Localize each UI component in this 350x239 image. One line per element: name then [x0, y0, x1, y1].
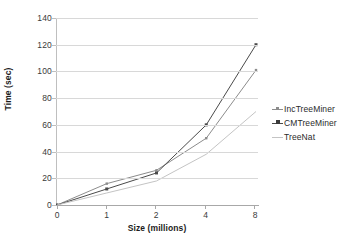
- data-point-marker: [106, 182, 108, 184]
- x-tick-mark: [205, 205, 206, 209]
- x-tick-label: 2: [143, 210, 169, 220]
- legend-point-marker: [276, 107, 279, 110]
- x-tick-mark: [57, 205, 58, 209]
- data-point-marker: [155, 171, 158, 174]
- legend-label: TreeNat: [284, 132, 315, 142]
- y-tick-label: 60: [22, 120, 52, 130]
- legend-marker-icon: [272, 119, 283, 128]
- y-axis-tick-labels: 140 120 100 80 60 40 20 0: [16, 18, 52, 205]
- legend-marker-icon: [272, 105, 283, 114]
- x-axis-tick-labels: 0 1 2 4 8: [56, 210, 258, 222]
- x-tick-mark: [155, 205, 156, 209]
- data-point-marker: [155, 169, 157, 171]
- x-tick-label: 4: [193, 210, 219, 220]
- legend-item-inctreeminer: IncTreeMiner: [272, 102, 350, 116]
- y-tick-label: 80: [22, 93, 52, 103]
- legend-point-marker: [276, 120, 280, 124]
- x-axis-title: Size (millions): [56, 223, 258, 233]
- x-tick-label: 8: [242, 210, 268, 220]
- y-tick-label: 120: [22, 40, 52, 50]
- y-tick-label: 40: [22, 147, 52, 157]
- gridline: [56, 71, 258, 72]
- gridline: [56, 152, 258, 153]
- legend-label: IncTreeMiner: [284, 104, 335, 114]
- y-tick-label: 140: [22, 13, 52, 23]
- x-tick-mark: [254, 205, 255, 209]
- legend-item-cmtreeminer: CMTreeMiner: [272, 116, 350, 130]
- data-point-marker: [205, 137, 207, 139]
- gridline: [56, 45, 258, 46]
- x-tick-label: 1: [94, 210, 120, 220]
- data-point-marker: [105, 187, 108, 190]
- x-tick-mark: [106, 205, 107, 209]
- chart-screenshot: 140 120 100 80 60 40 20 0 0 1 2 4 8: [0, 0, 350, 239]
- chart-legend: IncTreeMiner CMTreeMiner TreeNat: [272, 102, 350, 144]
- gridline: [56, 125, 258, 126]
- gridline: [56, 98, 258, 99]
- y-axis-title: Time (sec): [3, 49, 13, 129]
- y-tick-label: 20: [22, 173, 52, 183]
- series-lines: [56, 18, 258, 205]
- x-tick-label: 0: [44, 210, 70, 220]
- gridline: [56, 18, 258, 19]
- gridline: [56, 178, 258, 179]
- legend-marker-icon: [272, 133, 283, 142]
- y-tick-label: 0: [22, 200, 52, 210]
- y-tick-label: 100: [22, 66, 52, 76]
- legend-item-treenat: TreeNat: [272, 130, 350, 144]
- legend-line: [272, 137, 283, 138]
- plot-area: [56, 18, 258, 205]
- legend-label: CMTreeMiner: [284, 118, 337, 128]
- x-axis-line: [56, 205, 259, 206]
